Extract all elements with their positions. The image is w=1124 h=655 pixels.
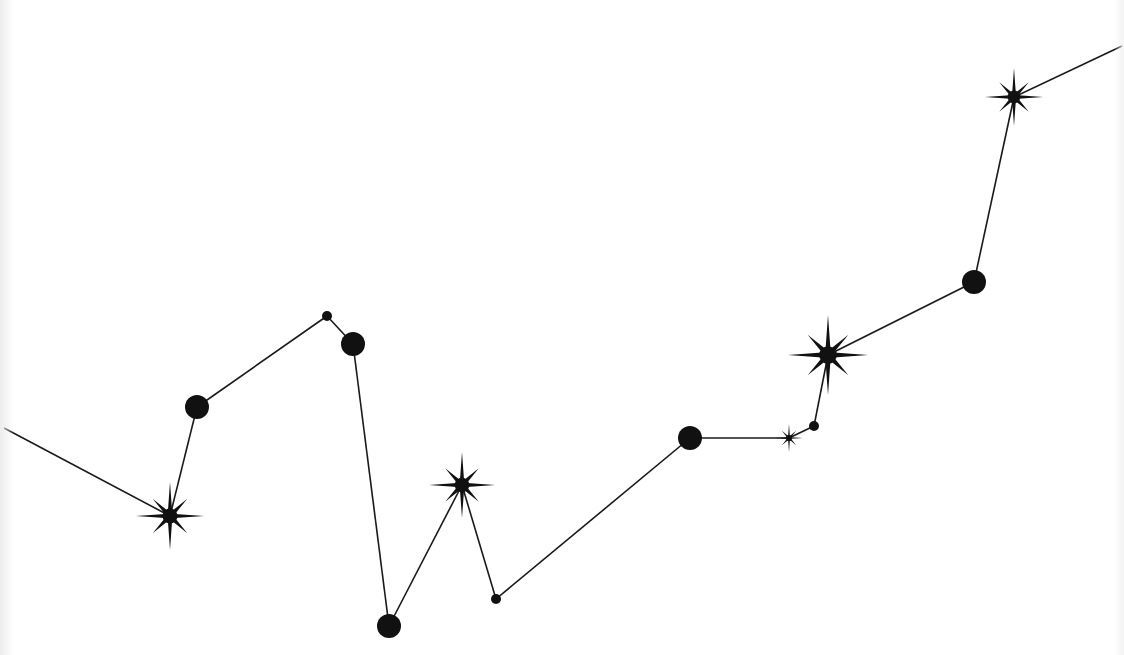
dot-node-icon bbox=[678, 426, 702, 450]
connector-line bbox=[197, 316, 327, 407]
dot-node-icon bbox=[377, 614, 401, 638]
constellation-drawing bbox=[0, 0, 1124, 655]
star-core-icon bbox=[786, 435, 792, 441]
dot-node-icon bbox=[491, 594, 501, 604]
connector-line bbox=[496, 438, 690, 599]
dot-node-icon bbox=[341, 332, 365, 356]
connector-line bbox=[353, 344, 389, 626]
connector-line bbox=[974, 97, 1014, 282]
dot-node-icon bbox=[962, 270, 986, 294]
constellation-canvas bbox=[0, 0, 1124, 655]
star-core-icon bbox=[819, 346, 837, 364]
dot-node-icon bbox=[809, 421, 819, 431]
star-core-icon bbox=[455, 478, 470, 493]
connector-line bbox=[1014, 46, 1122, 97]
nodes-layer bbox=[136, 68, 1043, 638]
star-core-icon bbox=[1008, 91, 1021, 104]
edges-layer bbox=[4, 46, 1122, 626]
connector-line bbox=[170, 407, 197, 516]
dot-node-icon bbox=[322, 311, 332, 321]
left-edge-shadow bbox=[0, 0, 14, 655]
star-core-icon bbox=[163, 509, 178, 524]
connector-line bbox=[462, 485, 496, 599]
connector-line bbox=[4, 428, 170, 516]
right-edge-shadow bbox=[1114, 0, 1124, 655]
connector-line bbox=[828, 282, 974, 355]
connector-line bbox=[389, 485, 462, 626]
dot-node-icon bbox=[185, 395, 209, 419]
